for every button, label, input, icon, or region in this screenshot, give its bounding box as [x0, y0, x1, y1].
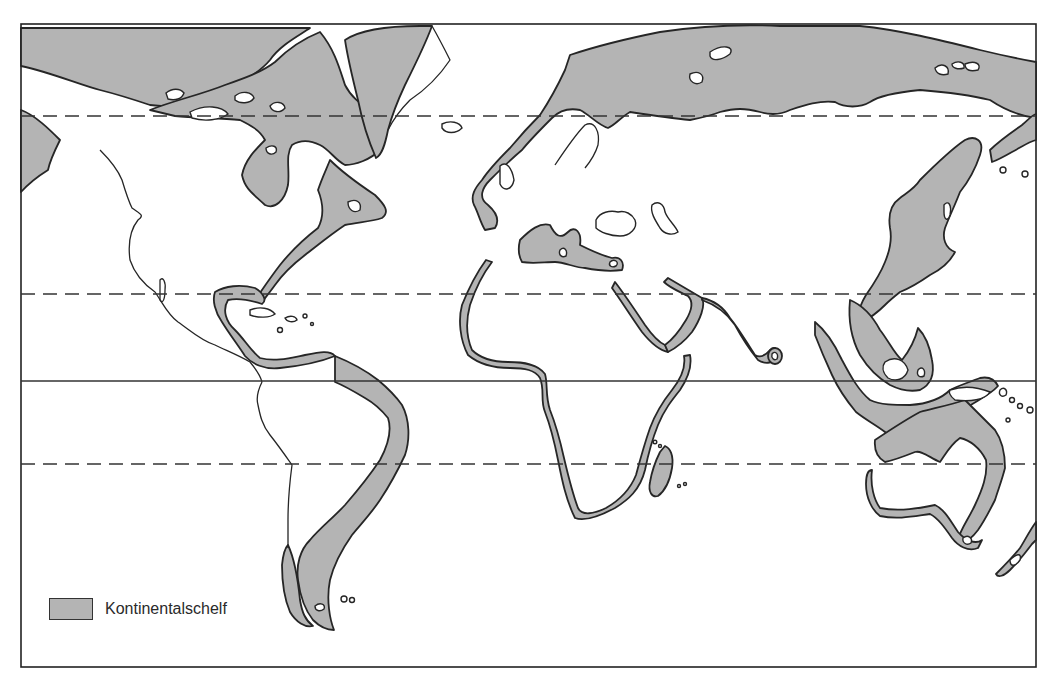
island-caribbean-3	[311, 323, 314, 326]
island-mauritius-1	[678, 485, 681, 488]
island-comoros-1	[653, 440, 657, 444]
island-kuril-2	[1022, 171, 1028, 177]
island-iceland	[442, 122, 462, 133]
island-arctic-4	[270, 102, 285, 111]
island-siberian-2	[952, 62, 964, 69]
continental-shelf-swatch	[49, 598, 93, 620]
island-sri-lanka-inner	[772, 352, 778, 359]
island-siberian-3	[965, 62, 979, 70]
island-comoros-2	[659, 445, 662, 448]
island-arctic-2	[235, 92, 254, 102]
island-hudson	[266, 146, 276, 154]
island-kuril-1	[1000, 167, 1006, 173]
island-sicily	[559, 248, 566, 256]
island-cyprus	[609, 260, 617, 266]
island-falklands	[315, 604, 324, 611]
island-caribbean-2	[278, 328, 283, 333]
island-pacific-2	[1018, 404, 1023, 409]
island-sulawesi	[917, 368, 924, 377]
island-mauritius-2	[684, 483, 687, 486]
island-japan	[944, 203, 951, 219]
island-tasmania	[963, 536, 972, 544]
island-solomon	[999, 388, 1006, 396]
island-pacific-3	[1027, 407, 1033, 413]
lake-black-sea	[596, 211, 636, 236]
island-caribbean-1	[303, 314, 307, 318]
map-legend: Kontinentalschelf	[49, 598, 227, 620]
island-pacific-4	[1006, 418, 1010, 422]
island-pacific-1	[1010, 398, 1015, 403]
island-hispaniola	[285, 316, 297, 321]
legend-label: Kontinentalschelf	[105, 600, 227, 618]
world-map	[0, 0, 1043, 684]
island-south-georgia-2	[350, 598, 355, 603]
island-south-georgia-1	[341, 596, 347, 602]
island-arctic-asia-1	[690, 72, 703, 83]
